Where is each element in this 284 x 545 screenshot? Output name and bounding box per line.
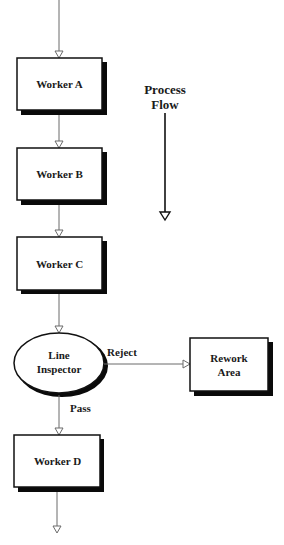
- down-arrow-icon: [160, 212, 170, 220]
- arrowhead-icon: [55, 428, 63, 435]
- process-flow-label-line1: Process: [144, 82, 186, 97]
- process-flow-legend: Process Flow: [144, 82, 186, 220]
- node-worker-d: Worker D: [14, 435, 104, 492]
- rework-area-label-line2: Area: [217, 366, 241, 378]
- node-worker-b: Worker B: [17, 148, 107, 205]
- pass-edge-label: Pass: [70, 402, 92, 414]
- worker-c-label: Worker C: [36, 258, 83, 270]
- arrowhead-icon: [55, 326, 63, 333]
- line-inspector-label-line2: Inspector: [37, 363, 82, 375]
- node-worker-a: Worker A: [17, 58, 107, 115]
- process-flow-label-line2: Flow: [151, 97, 179, 112]
- arrowhead-icon: [53, 526, 61, 533]
- edge-line-inspector-to-worker-d: Pass: [55, 395, 92, 435]
- arrowhead-icon: [55, 230, 63, 237]
- rework-area-label-line1: Rework: [210, 352, 248, 364]
- edge-worker-b-to-worker-c: [55, 205, 63, 237]
- edge-worker-a-to-worker-b: [55, 115, 63, 148]
- edge-start-to-worker-a: [55, 0, 63, 58]
- node-rework-area: Rework Area: [190, 338, 273, 396]
- arrowhead-icon: [55, 51, 63, 58]
- arrowhead-icon: [55, 141, 63, 148]
- worker-a-label: Worker A: [36, 78, 83, 90]
- worker-d-label: Worker D: [34, 455, 81, 467]
- worker-b-label: Worker B: [36, 168, 83, 180]
- node-worker-c: Worker C: [17, 237, 107, 294]
- node-line-inspector: Line Inspector: [14, 333, 108, 397]
- arrowhead-icon: [183, 360, 190, 368]
- edge-worker-d-to-end: [53, 492, 61, 533]
- edge-worker-c-to-line-inspector: [55, 294, 63, 333]
- reject-edge-label: Reject: [107, 346, 137, 358]
- line-inspector-label-line1: Line: [48, 349, 70, 361]
- edge-line-inspector-to-rework-area: Reject: [104, 346, 190, 368]
- process-flow-diagram: Worker A Worker B Worker C Line Inspecto…: [0, 0, 284, 545]
